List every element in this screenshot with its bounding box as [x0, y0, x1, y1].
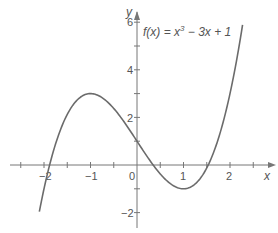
x-tick-label: 2: [226, 170, 232, 182]
function-curve: [39, 25, 242, 212]
y-axis-arrow-icon: [134, 11, 140, 20]
x-axis-arrow-icon: [268, 162, 276, 168]
y-tick-label: 2: [127, 112, 133, 124]
y-tick-label: −2: [121, 207, 134, 219]
origin-label: 0: [129, 170, 135, 182]
y-tick-label: 4: [127, 64, 133, 76]
function-annotation: f(x) = x3 − 3x + 1: [143, 24, 231, 39]
chart: x y −2 −1 0 1 2 6 4 2 −2 f(x) = x3 − 3x …: [0, 0, 278, 233]
x-axis-label: x: [263, 169, 271, 183]
x-tick-label: 1: [180, 170, 186, 182]
y-tick-label: 6: [127, 16, 133, 28]
plot-area: x y −2 −1 0 1 2 6 4 2 −2 f(x) = x3 − 3x …: [0, 0, 278, 233]
x-tick-label: −1: [85, 170, 98, 182]
